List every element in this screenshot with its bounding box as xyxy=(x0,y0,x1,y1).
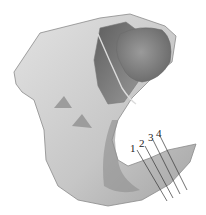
label-3: 3 xyxy=(148,132,154,143)
label-1: 1 xyxy=(130,143,136,154)
bone-illustration xyxy=(0,0,206,215)
label-4: 4 xyxy=(156,128,162,139)
hip-bone-figure: 1 2 3 4 xyxy=(0,0,206,215)
label-2: 2 xyxy=(139,138,145,149)
